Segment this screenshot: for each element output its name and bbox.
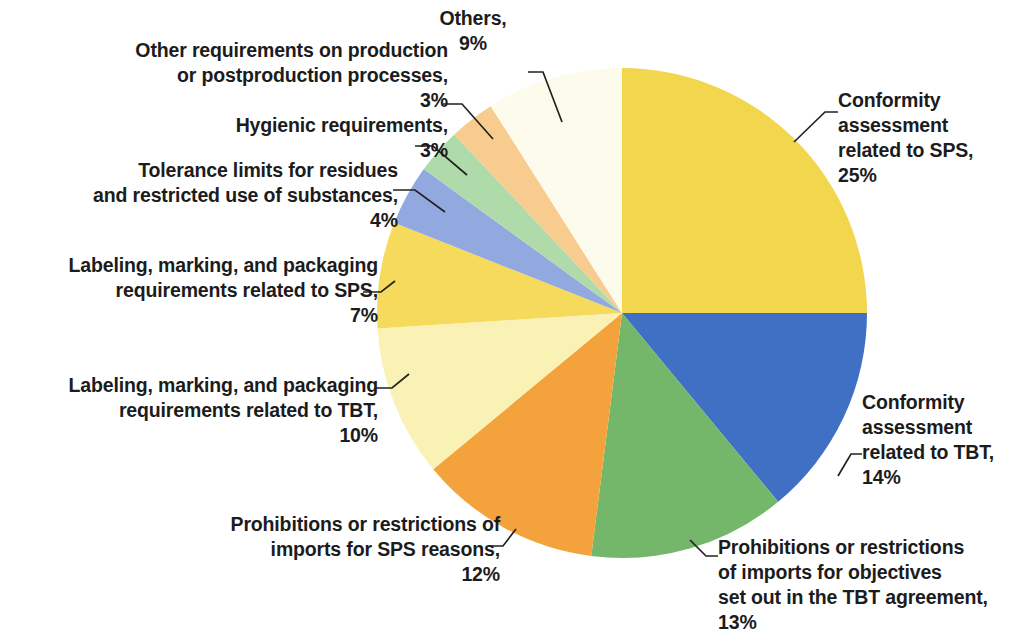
slice-label-conformity-tbt: Conformity assessment related to TBT, 14… — [862, 390, 1013, 490]
slice-label-tolerance-limits: Tolerance limits for residues and restri… — [8, 158, 398, 233]
slice-label-labeling-tbt: Labeling, marking, and packaging require… — [0, 373, 378, 448]
slice-label-hygienic: Hygienic requirements, 3% — [28, 113, 448, 163]
pie-slice-conformity-sps: Conformity assessment related to SPS — 2… — [622, 68, 867, 313]
slice-label-labeling-sps: Labeling, marking, and packaging require… — [0, 253, 378, 328]
slice-label-prohibitions-tbt: Prohibitions or restrictions of imports … — [718, 535, 1013, 634]
pie-chart-figure: Conformity assessment related to SPS — 2… — [0, 0, 1013, 634]
leader-line-conformity-tbt — [838, 454, 862, 476]
leader-line-conformity-sps — [794, 112, 838, 142]
slice-label-conformity-sps: Conformity assessment related to SPS, 25… — [838, 88, 1013, 188]
pie-slice-group: Conformity assessment related to SPS — 2… — [377, 68, 867, 558]
slice-label-prohibitions-sps: Prohibitions or restrictions of imports … — [160, 512, 500, 587]
slice-label-other-requirements: Other requirements on production or post… — [28, 38, 448, 113]
